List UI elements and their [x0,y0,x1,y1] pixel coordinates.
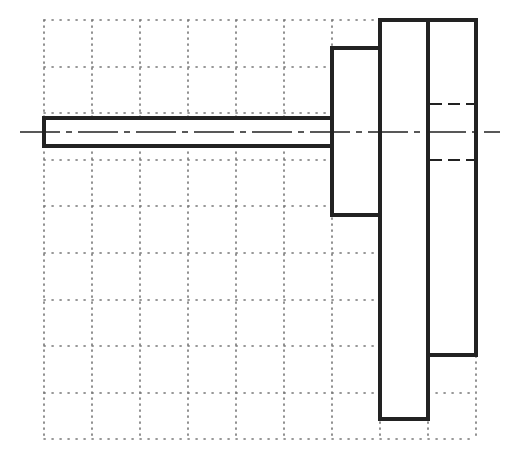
diagram-canvas: Stepped shaft with hub and discs on dott… [0,0,527,467]
part-outlines [44,20,476,419]
disc-1 [380,20,428,419]
technical-drawing [0,0,527,467]
disc-2 [428,20,476,355]
